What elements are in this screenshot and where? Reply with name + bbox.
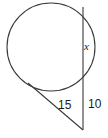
geometry-canvas (0, 0, 108, 138)
tangent-line (28, 83, 83, 130)
circle-shape (7, 3, 95, 91)
geometry-diagram: x 15 10 (0, 0, 108, 138)
secant-external-length-label: 10 (88, 98, 101, 110)
tangent-length-label: 15 (58, 99, 71, 111)
chord-length-label: x (84, 41, 89, 52)
